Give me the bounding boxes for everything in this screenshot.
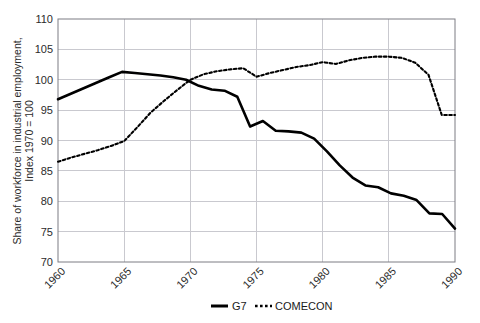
y-tick-label: 70	[41, 256, 53, 268]
y-tick-label: 110	[35, 13, 53, 25]
y-tick-label: 85	[41, 165, 53, 177]
legend-label-comecon: COMECON	[275, 300, 333, 312]
y-axis-title-line1: Share of workforce in industrial employm…	[11, 37, 23, 244]
x-tick-label: 1990	[439, 265, 465, 291]
x-tick-label: 1970	[174, 265, 200, 291]
x-tick-label: 1965	[108, 265, 134, 291]
x-tick-label: 1980	[306, 265, 332, 291]
y-tick-label: 100	[35, 74, 53, 86]
y-tick-label: 90	[41, 135, 53, 147]
y-tick-label: 75	[41, 226, 53, 238]
y-tick-label: 105	[35, 43, 53, 55]
y-axis-tick-labels: 707580859095100105110	[35, 13, 53, 268]
x-tick-label: 1985	[372, 265, 398, 291]
chart-svg: 707580859095100105110 196019651970197519…	[0, 0, 480, 323]
gridlines-group	[58, 19, 455, 262]
x-tick-label: 1975	[240, 265, 266, 291]
chart-legend: G7 COMECON	[211, 300, 333, 312]
y-tick-label: 80	[41, 195, 53, 207]
chart-container: 707580859095100105110 196019651970197519…	[0, 0, 480, 323]
legend-label-g7: G7	[232, 300, 247, 312]
x-axis-tick-labels: 1960196519701975198019851990	[42, 265, 465, 291]
y-axis-title-line2: Index 1970 = 100	[23, 100, 35, 182]
x-tick-label: 1960	[42, 265, 68, 291]
y-tick-label: 95	[41, 104, 53, 116]
